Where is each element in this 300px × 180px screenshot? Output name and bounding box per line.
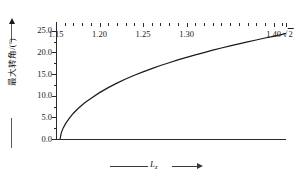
series-curve-max-angle	[60, 33, 286, 139]
x-axis-label-text: Lz	[150, 159, 158, 170]
y-axis-line	[56, 22, 57, 140]
x-tick-minor	[248, 23, 249, 26]
x-tick-minor	[117, 23, 118, 26]
x-tick-minor	[73, 23, 74, 26]
x-tick-minor	[160, 23, 161, 26]
x-tick-minor	[152, 23, 153, 26]
x-axis-line	[56, 139, 286, 140]
x-tick-label: 1.25	[136, 29, 151, 39]
x-tick-minor	[239, 23, 240, 26]
y-tick-minor	[54, 63, 57, 64]
x-tick-minor	[221, 23, 222, 26]
x-tick-major	[274, 23, 275, 27]
y-tick-major	[52, 96, 56, 97]
y-tick-label: 10.0	[22, 91, 52, 100]
x-tick-major	[187, 23, 188, 27]
x-axis-subscript: z	[155, 163, 158, 170]
y-tick-label: 5.0	[22, 113, 52, 122]
x-tick-label: 1.15	[49, 29, 64, 39]
x-tick-minor	[230, 23, 231, 26]
y-tick-label: 25.0	[22, 26, 52, 35]
x-tick-minor	[213, 23, 214, 26]
figure-root: 最大转角/(°) 0.05.010.015.020.025.0 1.151.20…	[0, 0, 300, 180]
y-tick-label: 20.0	[22, 48, 52, 57]
y-tick-minor	[54, 128, 57, 129]
x-tick-major	[100, 23, 101, 27]
x-tick-minor	[265, 23, 266, 26]
y-tick-major	[52, 52, 56, 53]
x-tick-minor	[65, 23, 66, 26]
x-tick-minor	[256, 23, 257, 26]
x-tick-major	[143, 23, 144, 27]
x-tick-label: 1.20	[92, 29, 107, 39]
x-tick-minor	[82, 23, 83, 26]
x-tick-minor	[108, 23, 109, 26]
x-tick-minor	[204, 23, 205, 26]
x-tick-label: 1.30	[179, 29, 194, 39]
y-tick-label: 0.0	[22, 135, 52, 144]
x-tick-label: 1.40	[266, 29, 281, 39]
y-tick-major	[52, 74, 56, 75]
x-caption-rule-left	[110, 166, 148, 167]
x-tick-minor	[126, 23, 127, 26]
x-tick-minor	[286, 23, 287, 26]
plot-area: 1.151.201.251.301.40√2	[56, 22, 286, 140]
y-tick-label: 15.0	[22, 70, 52, 79]
y-tick-minor	[54, 42, 57, 43]
x-caption-rule-right	[172, 166, 198, 167]
data-curve-svg	[56, 22, 286, 140]
x-tick-minor	[195, 23, 196, 26]
y-tick-major	[52, 117, 56, 118]
y-tick-minor	[54, 85, 57, 86]
y-tick-label-group: 0.05.010.015.020.025.0	[18, 0, 52, 180]
y-caption-rule-bottom	[11, 118, 12, 148]
x-tick-minor	[169, 23, 170, 26]
y-tick-major	[52, 139, 56, 140]
right-arrow-icon	[197, 163, 203, 169]
x-tick-label: √2	[283, 29, 294, 39]
x-tick-major	[56, 23, 57, 27]
y-tick-minor	[54, 107, 57, 108]
x-tick-minor	[282, 23, 283, 26]
x-tick-minor	[134, 23, 135, 26]
x-axis-caption: Lz	[110, 158, 220, 174]
y-axis-label-text: 最大转角/(°)	[6, 24, 18, 100]
x-tick-minor	[91, 23, 92, 26]
x-tick-minor	[178, 23, 179, 26]
